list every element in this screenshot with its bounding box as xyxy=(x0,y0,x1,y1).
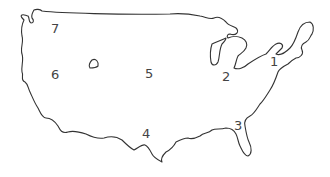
region-label-2: 2 xyxy=(222,70,230,83)
region-label-4: 4 xyxy=(142,127,150,140)
great-salt-lake-outline xyxy=(89,59,98,68)
region-label-3: 3 xyxy=(234,119,242,132)
country-outline xyxy=(21,9,313,162)
us-map-outline xyxy=(0,0,330,177)
region-label-7: 7 xyxy=(51,22,59,35)
region-label-5: 5 xyxy=(145,67,153,80)
lake-michigan-outline xyxy=(210,38,226,65)
region-label-1: 1 xyxy=(270,55,278,68)
region-label-6: 6 xyxy=(51,68,59,81)
